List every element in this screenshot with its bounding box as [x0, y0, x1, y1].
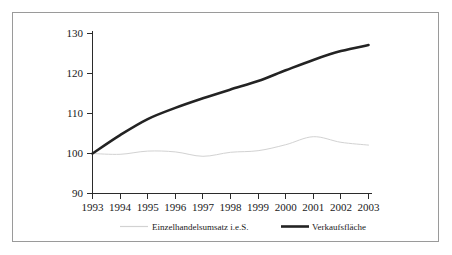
y-tick-label-90: 90: [72, 187, 84, 199]
series-line-einzelhandelsumsatz: [93, 137, 369, 157]
x-tick-label-2002: 2002: [330, 201, 352, 213]
x-tick-label-1997: 1997: [192, 201, 215, 213]
x-tick-label-1994: 1994: [109, 201, 132, 213]
chart-legend: Einzelhandelsumsatz i.e.S. Verkaufsfläch…: [120, 222, 366, 232]
x-tick-label-2003: 2003: [358, 201, 381, 213]
x-tick-label-1993: 1993: [82, 201, 105, 213]
y-tick-label-130: 130: [67, 27, 84, 39]
x-tick-label-1995: 1995: [137, 201, 160, 213]
x-tick-label-1996: 1996: [164, 201, 187, 213]
x-tick-label-2001: 2001: [302, 201, 324, 213]
x-tick-label-1999: 1999: [247, 201, 270, 213]
legend-label-einzelhandelsumsatz: Einzelhandelsumsatz i.e.S.: [152, 222, 248, 232]
y-tick-label-120: 120: [67, 67, 84, 79]
y-tick-label-110: 110: [67, 107, 84, 119]
chart-figure: 130 120 110 100 90 1993 1994 1995 1996 1…: [0, 0, 452, 255]
legend-label-verkaufsflaeche: Verkaufsfläche: [312, 222, 366, 232]
y-axis-ticks: 130 120 110 100 90: [67, 27, 93, 199]
x-tick-label-2000: 2000: [275, 201, 298, 213]
x-axis-ticks: 1993 1994 1995 1996 1997 1998 1999 2000 …: [82, 194, 381, 214]
series-line-verkaufsflaeche: [93, 45, 369, 153]
x-tick-label-1998: 1998: [220, 201, 243, 213]
line-chart: 130 120 110 100 90 1993 1994 1995 1996 1…: [0, 0, 452, 255]
y-tick-label-100: 100: [67, 147, 84, 159]
